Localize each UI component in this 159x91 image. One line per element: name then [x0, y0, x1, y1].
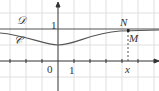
label-C: 𝒞 — [14, 35, 22, 46]
point-M-label: M — [129, 33, 138, 44]
y-tick-1: 1 — [51, 20, 57, 31]
origin-label: 0 — [47, 64, 53, 75]
label-D: 𝒟 — [17, 15, 26, 26]
point-N-label: N — [120, 17, 127, 28]
x-label: x — [125, 64, 130, 75]
x-tick-1: 1 — [69, 65, 75, 76]
